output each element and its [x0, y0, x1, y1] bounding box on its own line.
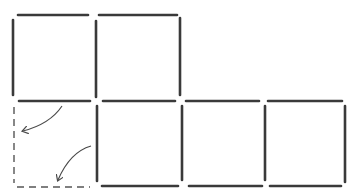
solid-sticks	[13, 15, 345, 186]
matchstick-diagram	[0, 0, 361, 196]
move-arrows	[23, 106, 91, 180]
arrow-to-left-icon	[23, 106, 62, 131]
dashed-sticks	[14, 107, 90, 187]
arrow-to-bottom-icon	[58, 146, 91, 180]
